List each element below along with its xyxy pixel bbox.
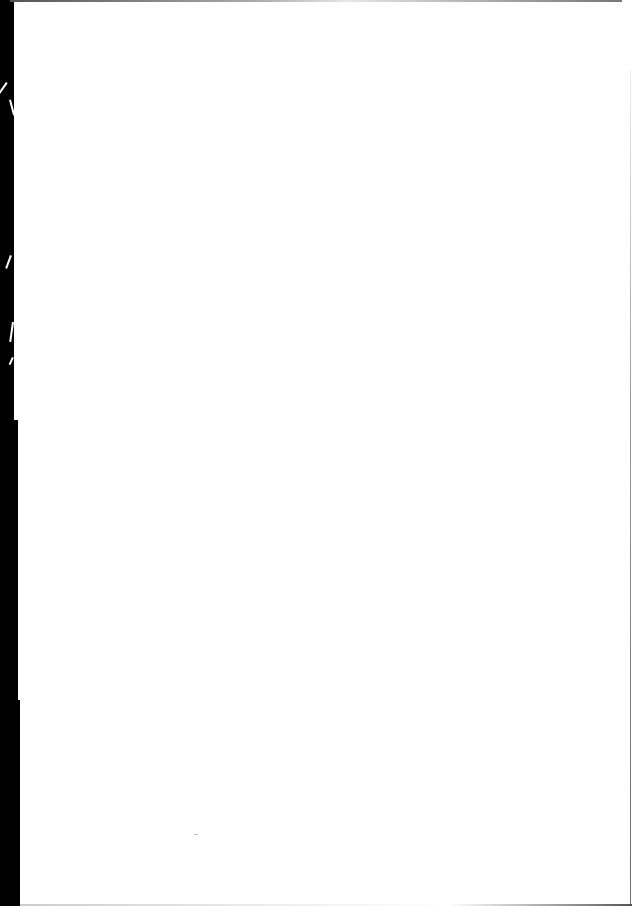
page-right-edge — [630, 70, 631, 906]
scanned-page — [0, 0, 632, 906]
page-body — [20, 2, 630, 904]
scanner-left-border-bottom — [0, 700, 20, 906]
